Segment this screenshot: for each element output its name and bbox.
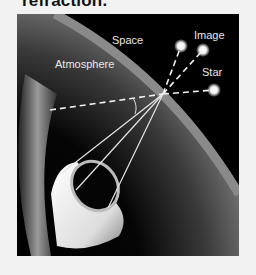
label-image: Image [194,29,225,41]
star-dot [207,83,221,97]
label-atmosphere: Atmosphere [55,58,114,70]
label-star: Star [202,66,222,78]
caption-text: refraction. [22,0,107,11]
refraction-diagram: Space Image Atmosphere Star [17,14,239,256]
image-dot-1 [174,39,188,53]
label-space: Space [112,34,143,46]
image-dot-2 [196,43,210,57]
diagram-graphic [17,14,239,256]
